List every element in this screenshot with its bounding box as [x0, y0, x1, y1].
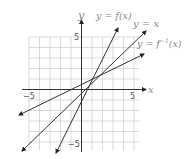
y-tick-5: 5	[74, 33, 79, 42]
function-inverse-chart: −5 5 5 −5 y x y = f(x) y = x y = f−1(x)	[0, 0, 187, 159]
x-tick-5: 5	[130, 92, 135, 101]
x-tick-neg5: −5	[23, 92, 35, 101]
line-f	[56, 28, 118, 153]
label-inverse-prefix: y = f	[136, 38, 161, 49]
line-identity	[22, 31, 146, 151]
x-axis-label: x	[148, 84, 154, 95]
label-inverse-suffix: (x)	[169, 38, 182, 49]
label-inverse: y = f−1(x)	[136, 37, 182, 49]
label-f: y = f(x)	[95, 10, 132, 21]
y-axis-label: y	[77, 9, 85, 22]
label-identity: y = x	[132, 18, 159, 29]
y-tick-neg5: −5	[68, 140, 80, 149]
label-inverse-sup: −1	[160, 37, 169, 44]
